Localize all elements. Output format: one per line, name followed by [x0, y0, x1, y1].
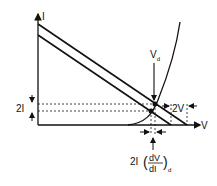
operating-point-lower: [149, 109, 154, 114]
x-axis-label: V: [201, 120, 208, 131]
svg-text:dI: dI: [149, 164, 157, 174]
operating-point-upper: [153, 102, 158, 107]
bottom-formula: 2I ( dV dI ) d: [130, 153, 171, 174]
svg-text:dV: dV: [149, 153, 160, 163]
svg-text:(: (: [143, 154, 148, 170]
iv-diagram: I V Vd 2I 2V 2I ( dV dI ) d: [0, 0, 217, 186]
two-i-label: 2I: [16, 103, 24, 114]
upper-load-line: [38, 24, 187, 125]
y-axis-label: I: [42, 11, 45, 22]
svg-text:d: d: [168, 167, 171, 173]
svg-text:2I: 2I: [130, 156, 138, 167]
vd-label: Vd: [150, 49, 160, 62]
two-v-label: 2V: [172, 103, 185, 114]
svg-text:): ): [163, 154, 168, 170]
